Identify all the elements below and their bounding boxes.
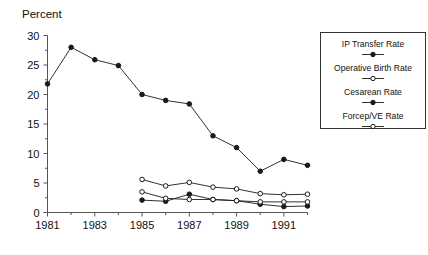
- data-point-marker: [305, 163, 310, 168]
- x-tick-label: 1985: [130, 219, 154, 231]
- data-point-marker: [258, 191, 263, 196]
- data-point-marker: [371, 124, 375, 128]
- data-point-marker: [187, 102, 192, 107]
- data-point-marker: [163, 98, 168, 103]
- data-point-marker: [305, 200, 310, 205]
- y-tick-label: 20: [27, 89, 39, 101]
- x-tick-label: 1991: [272, 219, 296, 231]
- x-tick-label: 1989: [224, 219, 248, 231]
- data-point-marker: [258, 200, 263, 205]
- data-point-marker: [116, 63, 121, 68]
- chart-legend: IP Transfer RateOperative Birth RateCesa…: [321, 33, 426, 129]
- y-tick-label: 10: [27, 148, 39, 160]
- data-point-marker: [371, 76, 375, 80]
- x-tick-label: 1987: [177, 219, 201, 231]
- data-point-marker: [187, 192, 192, 197]
- data-point-marker: [140, 92, 145, 97]
- data-point-marker: [211, 185, 216, 190]
- x-tick-label: 1981: [35, 219, 59, 231]
- axes-group: [44, 36, 308, 217]
- data-point-marker: [234, 198, 239, 203]
- series-1: [45, 45, 310, 174]
- data-point-marker: [282, 200, 287, 205]
- data-point-marker: [45, 82, 50, 87]
- series-group: [45, 45, 310, 209]
- data-point-marker: [371, 100, 375, 104]
- y-tick-label: 25: [27, 59, 39, 71]
- y-tick-label: 5: [33, 177, 39, 189]
- data-point-marker: [305, 192, 310, 197]
- legend-entry-label: Cesarean Rate: [344, 87, 402, 97]
- data-point-marker: [234, 187, 239, 192]
- y-tick-label-group: 051015202530: [27, 30, 39, 219]
- data-point-marker: [234, 145, 239, 150]
- x-tick-label-group: 198119831985198719891991: [35, 219, 296, 231]
- data-point-marker: [140, 190, 145, 195]
- plot-area-wrapper: 051015202530 198119831985198719891991 IP…: [0, 0, 428, 255]
- data-point-marker: [187, 180, 192, 185]
- line-chart-svg: 051015202530 198119831985198719891991 IP…: [0, 0, 428, 255]
- data-point-marker: [211, 197, 216, 202]
- data-point-marker: [371, 52, 375, 56]
- data-point-marker: [92, 57, 97, 62]
- data-point-marker: [282, 157, 287, 162]
- data-point-marker: [140, 177, 145, 182]
- data-point-marker: [282, 193, 287, 198]
- legend-entry-label: IP Transfer Rate: [342, 39, 405, 49]
- y-tick-label: 0: [33, 207, 39, 219]
- y-tick-label: 30: [27, 30, 39, 42]
- data-point-marker: [211, 134, 216, 139]
- series-2: [140, 177, 310, 197]
- legend-entry-label: Forcep/VE Rate: [342, 111, 403, 121]
- data-point-marker: [140, 198, 145, 203]
- series-line: [48, 47, 308, 171]
- data-point-marker: [69, 45, 74, 50]
- y-tick-label: 15: [27, 118, 39, 130]
- x-tick-label: 1983: [83, 219, 107, 231]
- data-point-marker: [163, 196, 168, 201]
- chart-figure: Percent 051015202530 1981198319851987198…: [0, 0, 428, 255]
- data-point-marker: [258, 169, 263, 174]
- data-point-marker: [282, 204, 287, 209]
- data-point-marker: [163, 184, 168, 189]
- data-point-marker: [187, 197, 192, 202]
- legend-entry-label: Operative Birth Rate: [334, 63, 412, 73]
